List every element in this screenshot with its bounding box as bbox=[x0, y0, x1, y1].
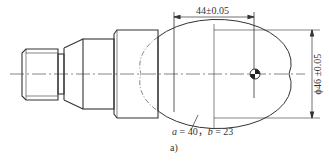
figure-caption: a) bbox=[170, 143, 178, 153]
param-b-label: b bbox=[208, 126, 213, 137]
center-marker-icon bbox=[250, 69, 260, 79]
shaft-drawing bbox=[0, 0, 329, 164]
length-dimension-label: 44±0.05 bbox=[196, 6, 229, 16]
ellipse-parameters-label: a = 40，b = 23 bbox=[172, 127, 233, 137]
param-b-value: 23 bbox=[223, 126, 233, 137]
diameter-dimension-label: ϕ46 ±0.05 bbox=[313, 54, 323, 95]
thread-section bbox=[22, 49, 58, 100]
param-a-value: 40 bbox=[188, 126, 198, 137]
param-separator: ， bbox=[198, 126, 208, 137]
param-a-label: a bbox=[172, 126, 177, 137]
